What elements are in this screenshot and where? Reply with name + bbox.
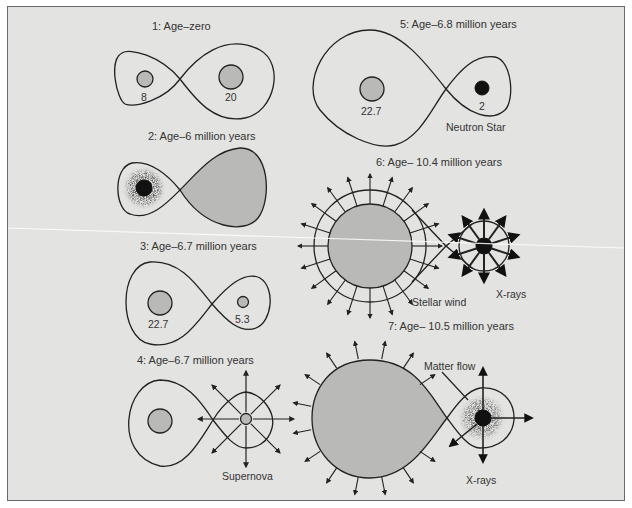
mass-label: 20 bbox=[225, 91, 237, 103]
arrow bbox=[305, 375, 320, 385]
supernova-label: Supernova bbox=[222, 470, 273, 482]
neutron-star-label: Neutron Star bbox=[446, 121, 506, 133]
arrow bbox=[382, 477, 386, 495]
arrow bbox=[212, 385, 241, 414]
exploding-star bbox=[241, 414, 252, 425]
matter-flow-pointer bbox=[442, 372, 468, 400]
panel-4-supernova: 4: Age–6.7 million years Supernova bbox=[129, 354, 294, 482]
panel-3-age-6-7-million: 3: Age–6.7 million years 22.7 5.3 bbox=[126, 240, 270, 345]
supergiant-star bbox=[328, 204, 412, 288]
arrow bbox=[328, 280, 346, 304]
roche-lobe-neck bbox=[412, 210, 472, 246]
panel-5-neutron-star: 5: Age–6.8 million years 22.7 2 Neutron … bbox=[313, 18, 517, 146]
arrow bbox=[293, 403, 311, 407]
panel-1-age-zero: 1: Age–zero 8 20 bbox=[115, 20, 274, 119]
arrow bbox=[327, 353, 337, 368]
mass-label: 2 bbox=[479, 100, 485, 112]
star-22-7-solar-mass bbox=[360, 77, 384, 101]
mass-label: 8 bbox=[141, 91, 147, 103]
neutron-star bbox=[475, 81, 489, 95]
black-hole bbox=[136, 180, 152, 196]
panel-2-age-6-million: 2: Age–6 million years bbox=[118, 130, 266, 227]
arrow bbox=[403, 353, 413, 368]
arrow bbox=[395, 188, 413, 212]
panel-5-title: 5: Age–6.8 million years bbox=[400, 18, 517, 30]
arrow bbox=[312, 271, 336, 289]
panel-6-title: 6: Age– 10.4 million years bbox=[376, 156, 502, 168]
mass-label: 5.3 bbox=[235, 313, 250, 325]
x-rays-label: X-rays bbox=[466, 474, 496, 486]
arrow bbox=[328, 188, 346, 212]
arrow bbox=[403, 468, 413, 483]
arrow bbox=[463, 252, 479, 275]
stellar-wind-label: Stellar wind bbox=[412, 296, 466, 308]
panel-7-matter-flow: 7: Age– 10.5 million years Matter flow X… bbox=[293, 320, 532, 495]
roche-lobe-neck bbox=[412, 246, 472, 282]
binary-star-evolution-diagram: 1: Age–zero 8 20 2: Age–6 million years … bbox=[0, 0, 632, 508]
arrow bbox=[489, 252, 505, 275]
panel-2-title: 2: Age–6 million years bbox=[148, 130, 256, 142]
neutron-star bbox=[476, 238, 492, 254]
arrow bbox=[404, 271, 428, 289]
star-20-solar-mass bbox=[219, 65, 243, 89]
x-rays-label: X-rays bbox=[496, 288, 526, 300]
arrow bbox=[492, 248, 519, 257]
arrow bbox=[312, 204, 336, 222]
arrow bbox=[327, 468, 337, 483]
panel-6-stellar-wind: 6: Age– 10.4 million years Stellar wind … bbox=[8, 156, 624, 318]
arrow bbox=[395, 280, 413, 304]
mass-label: 22.7 bbox=[148, 318, 169, 330]
star-5-3-solar-mass bbox=[238, 297, 249, 308]
star-22-7-solar-mass bbox=[148, 291, 172, 315]
arrow bbox=[492, 235, 519, 244]
arrow bbox=[293, 430, 311, 434]
panel-3-title: 3: Age–6.7 million years bbox=[140, 240, 257, 252]
arrow bbox=[420, 375, 435, 385]
neutron-star bbox=[475, 410, 491, 426]
mass-label: 22.7 bbox=[361, 105, 382, 117]
panel-7-title: 7: Age– 10.5 million years bbox=[388, 320, 514, 332]
arrow bbox=[251, 424, 280, 453]
arrow bbox=[212, 424, 241, 453]
arrow bbox=[489, 217, 505, 240]
arrow bbox=[463, 217, 479, 240]
arrow bbox=[355, 477, 359, 495]
star bbox=[148, 409, 172, 433]
arrow bbox=[251, 385, 280, 414]
arrow bbox=[355, 341, 359, 359]
filled-roche-lobe bbox=[180, 148, 266, 227]
filled-roche-lobe bbox=[312, 360, 447, 478]
arrow bbox=[420, 451, 435, 461]
arrow bbox=[305, 451, 320, 461]
matter-flow-label: Matter flow bbox=[424, 360, 476, 372]
panel-4-title: 4: Age–6.7 million years bbox=[137, 354, 254, 366]
arrow bbox=[404, 204, 428, 222]
star-8-solar-mass bbox=[137, 71, 153, 87]
panel-1-title: 1: Age–zero bbox=[152, 20, 211, 32]
arrow bbox=[382, 341, 386, 359]
